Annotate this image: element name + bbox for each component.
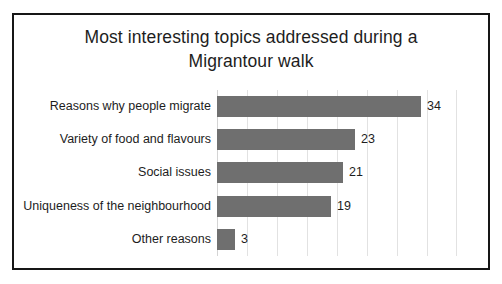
bar[interactable] (217, 229, 235, 250)
bar[interactable] (217, 129, 355, 150)
bar-row: 3 (217, 223, 457, 256)
category-label: Reasons why people migrate (14, 90, 211, 123)
bar[interactable] (217, 96, 421, 117)
bar-value-label: 23 (361, 129, 375, 150)
bar-value-label: 3 (241, 229, 248, 250)
chart-title: Most interesting topics addressed during… (14, 25, 488, 73)
bar[interactable] (217, 162, 343, 183)
chart-title-line-2: Migrantour walk (14, 49, 488, 73)
bar-row: 23 (217, 123, 457, 156)
category-label: Uniqueness of the neighbourhood (14, 190, 211, 223)
category-label: Social issues (14, 156, 211, 189)
chart-inner: Most interesting topics addressed during… (14, 15, 488, 268)
bar-row: 34 (217, 90, 457, 123)
bar-series: 34 23 21 19 3 (217, 90, 457, 256)
chart-container: Most interesting topics addressed during… (12, 13, 490, 270)
bar-value-label: 34 (427, 96, 441, 117)
bar-row: 21 (217, 156, 457, 189)
bar-value-label: 19 (337, 196, 351, 217)
plot-area: 34 23 21 19 3 (217, 90, 457, 256)
bar[interactable] (217, 196, 331, 217)
category-label: Other reasons (14, 223, 211, 256)
bar-value-label: 21 (349, 162, 363, 183)
category-axis-labels: Reasons why people migrate Variety of fo… (14, 90, 211, 256)
bar-row: 19 (217, 190, 457, 223)
chart-title-line-1: Most interesting topics addressed during… (14, 25, 488, 49)
category-label: Variety of food and flavours (14, 123, 211, 156)
